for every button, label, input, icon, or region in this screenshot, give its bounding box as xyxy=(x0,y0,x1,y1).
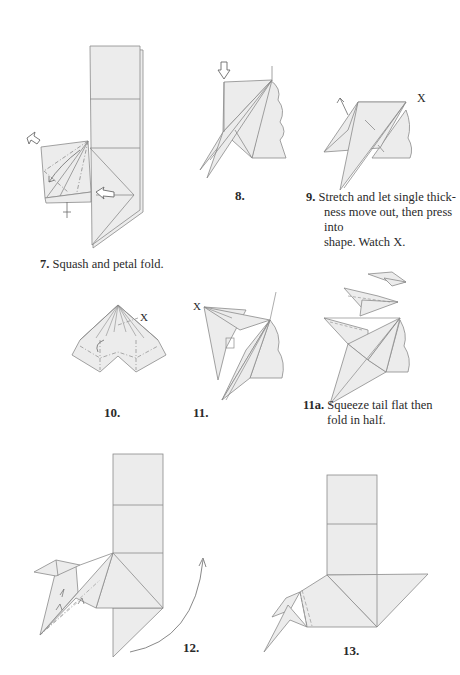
x-marker: X xyxy=(417,91,426,105)
hollow-arrow-icon xyxy=(218,62,230,79)
step-number: 11a. xyxy=(303,398,324,412)
diagram-step-11a xyxy=(300,260,460,400)
step-label-12: 12. xyxy=(183,640,199,656)
diagram-step-7 xyxy=(0,40,180,255)
step-number: 7. xyxy=(40,257,49,271)
diagram-step-10: X xyxy=(60,300,200,380)
step-text: Squash and petal fold. xyxy=(53,257,164,271)
step-label-11: 11. xyxy=(193,405,209,421)
caption-step-11a: 11a. Squeeze tail flat then fold in half… xyxy=(303,398,432,428)
caption-step-9: 9. Stretch and let single thick- ness mo… xyxy=(306,190,460,250)
caption-step-7: 7. Squash and petal fold. xyxy=(40,257,164,272)
step-text-line2: ness move out, then press into xyxy=(306,205,460,235)
step-text-line3: shape. Watch X. xyxy=(306,235,460,250)
diagram-step-8 xyxy=(180,60,310,180)
diagram-step-12 xyxy=(0,430,240,675)
step-number: 9. xyxy=(306,190,315,204)
step-label-10: 10. xyxy=(104,405,120,421)
diagram-step-13 xyxy=(250,440,460,675)
step-text: Squeeze tail flat then xyxy=(327,398,432,412)
step-text: Stretch and let single thick- xyxy=(319,190,456,204)
x-marker: X xyxy=(140,311,148,323)
step-label-8: 8. xyxy=(235,188,245,204)
step-text-line2: fold in half. xyxy=(303,413,432,428)
step-label-13: 13. xyxy=(343,643,359,659)
diagram-step-9: X xyxy=(300,90,460,170)
origami-instruction-page: 7. Squash and petal fold. 8. xyxy=(0,0,460,675)
x-marker: X xyxy=(193,300,201,312)
